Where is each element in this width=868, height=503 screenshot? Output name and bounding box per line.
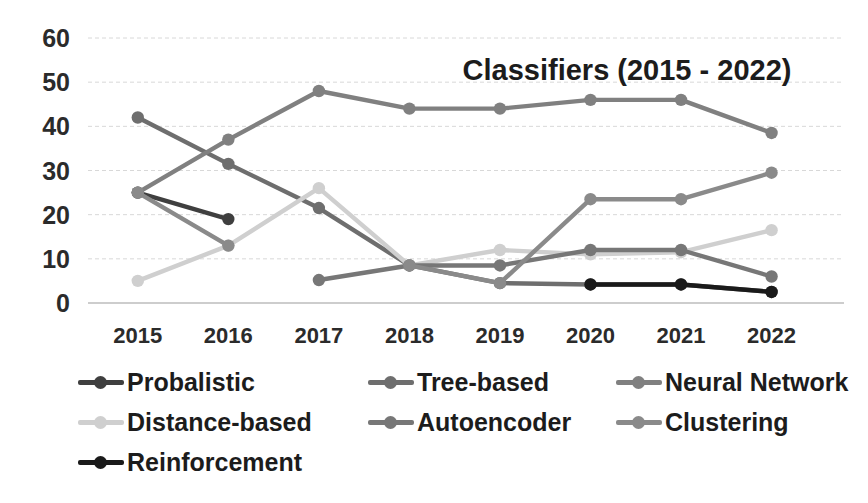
data-point xyxy=(222,213,234,225)
legend-marker-icon xyxy=(78,453,124,471)
data-point xyxy=(765,224,777,236)
x-axis-tick-label: 2022 xyxy=(747,323,796,348)
data-point xyxy=(132,275,144,287)
series-reinforcement xyxy=(584,278,777,298)
x-axis-tick-labels: 20152016201720182019202020212022 xyxy=(113,323,796,348)
x-axis-tick-label: 2018 xyxy=(385,323,434,348)
x-axis-tick-label: 2015 xyxy=(113,323,162,348)
legend-marker-icon xyxy=(368,413,414,431)
data-point xyxy=(222,158,234,170)
data-point xyxy=(313,85,325,97)
data-point xyxy=(313,202,325,214)
data-point xyxy=(765,286,777,298)
data-point xyxy=(132,186,144,198)
y-axis-tick-label: 40 xyxy=(42,112,70,140)
y-axis-tick-label: 50 xyxy=(42,68,70,96)
x-axis-tick-label: 2019 xyxy=(475,323,524,348)
legend-label: Clustering xyxy=(665,410,789,435)
series-line xyxy=(319,250,772,280)
x-axis-tick-label: 2021 xyxy=(657,323,706,348)
legend-item-autoencoder[interactable]: Autoencoder xyxy=(368,410,616,435)
legend-row-3: Reinforcement xyxy=(78,442,868,482)
legend-marker-icon xyxy=(368,373,414,391)
legend-label: Distance-based xyxy=(127,410,312,435)
data-point xyxy=(494,259,506,271)
data-point xyxy=(222,133,234,145)
chart-legend: Probalistic Tree-based Neural Network xyxy=(78,362,868,502)
data-point xyxy=(313,182,325,194)
chart-container: 0102030405060 20152016201720182019202020… xyxy=(0,0,868,503)
data-point xyxy=(675,278,687,290)
data-point xyxy=(675,244,687,256)
y-axis-tick-label: 10 xyxy=(42,245,70,273)
series-layer xyxy=(132,85,778,298)
y-axis-tick-label: 60 xyxy=(42,24,70,52)
data-point xyxy=(765,127,777,139)
legend-item-tree-based[interactable]: Tree-based xyxy=(368,370,616,395)
data-point xyxy=(584,244,596,256)
data-point xyxy=(313,274,325,286)
legend-item-probalistic[interactable]: Probalistic xyxy=(78,370,368,395)
chart-title: Classifiers (2015 - 2022) xyxy=(463,54,792,86)
y-axis-tick-labels: 0102030405060 xyxy=(42,24,70,317)
data-point xyxy=(222,239,234,251)
legend-row-1: Probalistic Tree-based Neural Network xyxy=(78,362,868,402)
legend-marker-icon xyxy=(616,373,662,391)
legend-label: Autoencoder xyxy=(417,410,571,435)
x-axis-tick-label: 2020 xyxy=(566,323,615,348)
legend-item-neural-network[interactable]: Neural Network xyxy=(616,370,848,395)
series-neural-network xyxy=(132,85,778,199)
legend-label: Reinforcement xyxy=(127,450,302,475)
data-point xyxy=(494,102,506,114)
data-point xyxy=(494,244,506,256)
data-point xyxy=(584,278,596,290)
series-line xyxy=(138,193,229,246)
legend-label: Neural Network xyxy=(665,370,848,395)
y-axis-tick-label: 20 xyxy=(42,201,70,229)
data-point xyxy=(132,111,144,123)
data-point xyxy=(675,94,687,106)
legend-marker-icon xyxy=(616,413,662,431)
legend-marker-icon xyxy=(78,413,124,431)
x-axis-tick-label: 2017 xyxy=(294,323,343,348)
legend-item-distance-based[interactable]: Distance-based xyxy=(78,410,368,435)
legend-marker-icon xyxy=(78,373,124,391)
legend-row-2: Distance-based Autoencoder Clustering xyxy=(78,402,868,442)
legend-item-reinforcement[interactable]: Reinforcement xyxy=(78,450,368,475)
data-point xyxy=(494,277,506,289)
data-point xyxy=(584,94,596,106)
plot-area: 0102030405060 20152016201720182019202020… xyxy=(0,0,868,360)
data-point xyxy=(765,270,777,282)
data-point xyxy=(675,193,687,205)
data-point xyxy=(403,102,415,114)
data-point xyxy=(584,193,596,205)
y-axis-tick-label: 30 xyxy=(42,157,70,185)
data-point xyxy=(403,259,415,271)
legend-item-clustering[interactable]: Clustering xyxy=(616,410,789,435)
legend-label: Tree-based xyxy=(417,370,549,395)
line-chart-svg: 0102030405060 20152016201720182019202020… xyxy=(0,0,868,360)
series-clustering xyxy=(132,167,778,290)
data-point xyxy=(765,167,777,179)
x-axis-tick-label: 2016 xyxy=(204,323,253,348)
legend-label: Probalistic xyxy=(127,370,255,395)
y-axis-tick-label: 0 xyxy=(56,289,70,317)
